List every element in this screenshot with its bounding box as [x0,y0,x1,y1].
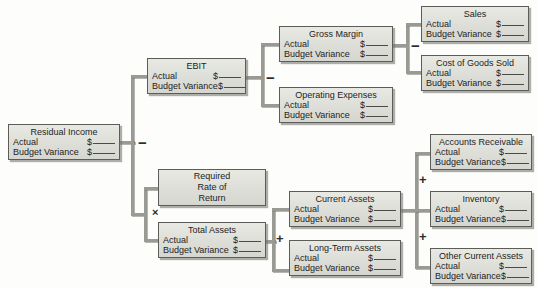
node-operating-expenses[interactable]: Operating Expenses Actual $ Budget Varia… [279,87,393,123]
connector-to-long-term-assets [272,269,290,272]
node-title: Long-Term Assets [294,243,396,253]
operator-residual-income-minus: − [138,135,147,150]
budget-variance-value-blank[interactable] [374,220,396,221]
node-budget-variance-row: Budget Variance $ [13,147,115,157]
connector-to-total-assets [144,239,159,242]
budget-variance-value-blank[interactable] [507,277,529,278]
currency-symbol: $ [499,261,504,271]
currency-symbol: $ [233,235,238,245]
node-cost-of-goods-sold[interactable]: Cost of Goods Sold Actual $ Budget Varia… [421,55,529,91]
currency-symbol: $ [213,71,218,81]
actual-value-blank[interactable] [366,106,388,107]
actual-value-blank[interactable] [93,143,115,144]
node-other-current-assets[interactable]: Other Current Assets Actual $ Budget Var… [430,248,532,284]
currency-symbol: $ [496,78,501,88]
node-total-assets[interactable]: Total Assets Actual $ Budget Variance $ [158,222,266,258]
budget-variance-label: Budget Variance [294,263,360,273]
node-title: Accounts Receivable [435,137,527,147]
actual-label: Actual [426,19,451,29]
budget-variance-value-blank[interactable] [507,163,529,164]
connector-to-sales [406,23,422,26]
node-budget-variance-row: Budget Variance $ [294,214,396,224]
actual-value-blank[interactable] [502,25,524,26]
operator-gross-margin-minus: − [411,38,420,53]
connector-trunk-vertical [131,75,134,215]
node-accounts-receivable[interactable]: Accounts Receivable Actual $ Budget Vari… [430,134,532,170]
actual-value-blank[interactable] [502,74,524,75]
node-actual-row: Actual $ [294,204,396,214]
connector-to-gross-margin [261,43,280,46]
node-budget-variance-row: Budget Variance $ [435,157,527,167]
node-actual-row: Actual $ [294,253,396,263]
actual-value-blank[interactable] [366,45,388,46]
currency-symbol: $ [501,157,506,167]
budget-variance-value-blank[interactable] [224,87,246,88]
operator-required-rate-times: × [152,207,158,218]
node-long-term-assets[interactable]: Long-Term Assets Actual $ Budget Varianc… [289,240,401,276]
budget-variance-label: Budget Variance [294,214,360,224]
node-inventory[interactable]: Inventory Actual $ Budget Variance $ [430,191,532,227]
budget-variance-value-blank[interactable] [374,269,396,270]
currency-symbol: $ [496,29,501,39]
operator-total-assets-plus: + [276,232,284,245]
connector-to-required-rate [144,187,159,190]
operator-ebit-minus: − [266,70,275,85]
connector-rate-assets-vertical [144,187,147,241]
node-sales[interactable]: Sales Actual $ Budget Variance $ [421,6,529,42]
budget-variance-value-blank[interactable] [507,220,529,221]
connector-to-accounts-receivable [415,152,431,155]
connector-ebit-split-vertical [261,43,264,104]
actual-value-blank[interactable] [219,77,241,78]
node-title: Operating Expenses [284,90,388,100]
node-gross-margin[interactable]: Gross Margin Actual $ Budget Variance $ [279,26,393,62]
budget-variance-value-blank[interactable] [502,84,524,85]
connector-to-current-assets [272,208,290,211]
budget-variance-value-blank[interactable] [366,55,388,56]
budget-variance-value-blank[interactable] [239,251,261,252]
node-title-line-1: Required [163,171,261,182]
budget-variance-label: Budget Variance [426,29,492,39]
connector-to-cogs [406,71,422,74]
currency-symbol: $ [233,245,238,255]
node-actual-row: Actual $ [152,71,241,81]
node-actual-row: Actual $ [426,68,524,78]
actual-value-blank[interactable] [505,267,527,268]
node-budget-variance-row: Budget Variance $ [426,78,524,88]
actual-label: Actual [284,100,309,110]
currency-symbol: $ [87,147,92,157]
currency-symbol: $ [368,263,373,273]
node-budget-variance-row: Budget Variance $ [284,49,388,59]
actual-label: Actual [426,68,451,78]
node-title: Gross Margin [284,29,388,39]
actual-label: Actual [294,204,319,214]
node-residual-income[interactable]: Residual Income Actual $ Budget Variance… [8,124,120,160]
node-title-line-2: Rate of [163,182,261,193]
node-ebit[interactable]: EBIT Actual $ Budget Variance $ [147,58,246,94]
node-title: Current Assets [294,194,396,204]
connector-to-operating-expenses [261,104,280,107]
operator-current-assets-plus-bottom: + [419,230,427,243]
budget-variance-value-blank[interactable] [93,153,115,154]
currency-symbol: $ [368,253,373,263]
node-budget-variance-row: Budget Variance $ [435,271,527,281]
actual-label: Actual [435,147,460,157]
budget-variance-label: Budget Variance [426,78,492,88]
actual-value-blank[interactable] [374,210,396,211]
operator-current-assets-plus-top: + [419,173,427,186]
budget-variance-label: Budget Variance [284,110,350,120]
currency-symbol: $ [360,110,365,120]
currency-symbol: $ [501,214,506,224]
budget-variance-label: Budget Variance [163,245,229,255]
budget-variance-value-blank[interactable] [366,116,388,117]
node-required-rate-of-return[interactable]: Required Rate of Return [158,169,266,206]
actual-value-blank[interactable] [239,241,261,242]
actual-value-blank[interactable] [505,153,527,154]
node-budget-variance-row: Budget Variance $ [284,110,388,120]
actual-value-blank[interactable] [505,210,527,211]
actual-label: Actual [294,253,319,263]
actual-value-blank[interactable] [374,259,396,260]
node-current-assets[interactable]: Current Assets Actual $ Budget Variance … [289,191,401,227]
node-title: Other Current Assets [435,251,527,261]
budget-variance-value-blank[interactable] [502,35,524,36]
node-budget-variance-row: Budget Variance $ [294,263,396,273]
